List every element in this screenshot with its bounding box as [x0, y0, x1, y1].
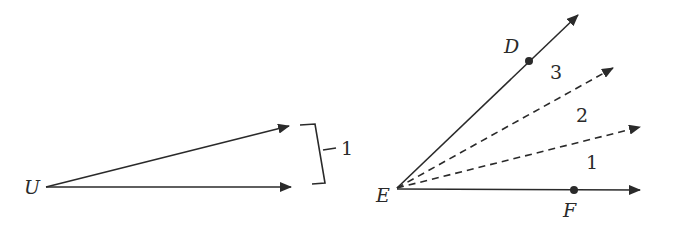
- right-angle-figure: D F E 1 2 3: [375, 15, 640, 221]
- dashed-ray-lower: [397, 127, 640, 188]
- point-f: [570, 186, 578, 194]
- vertex-label-u: U: [24, 176, 41, 198]
- sector-label-2: 2: [576, 104, 588, 126]
- ray-ef: [397, 189, 640, 190]
- ray-upper-u: [46, 126, 289, 187]
- point-f-label: F: [562, 199, 577, 221]
- point-d-label: D: [503, 35, 519, 57]
- sector-label-1: 1: [586, 151, 598, 173]
- bracket-label: 1: [341, 137, 353, 159]
- sector-label-3: 3: [550, 61, 562, 83]
- bracket: [300, 124, 325, 184]
- bracket-tick: [323, 148, 336, 150]
- dashed-ray-upper: [397, 68, 613, 188]
- ray-ed: [397, 15, 578, 188]
- vertex-label-e: E: [375, 184, 390, 206]
- angle-diagram: 1 U D F E 1 2 3: [0, 0, 675, 230]
- point-d: [525, 57, 533, 65]
- left-angle-figure: 1 U: [24, 124, 353, 198]
